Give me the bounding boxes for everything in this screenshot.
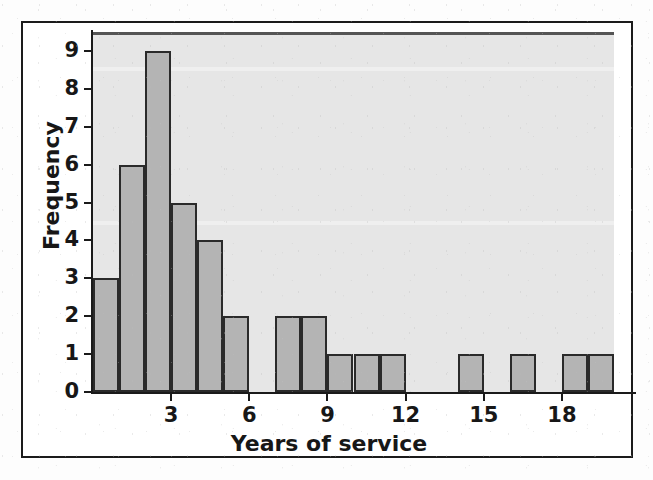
histogram-bar bbox=[119, 165, 145, 392]
x-axis-tick bbox=[405, 392, 407, 401]
histogram-bar bbox=[93, 278, 119, 392]
y-axis-tick-label: 1 bbox=[23, 343, 79, 364]
histogram-bar bbox=[223, 316, 249, 392]
histogram-bar bbox=[510, 354, 536, 392]
y-axis-tick bbox=[84, 126, 92, 128]
x-axis-tick-label: 6 bbox=[219, 405, 279, 426]
x-axis-line bbox=[91, 392, 636, 394]
y-axis-tick bbox=[84, 88, 92, 90]
x-axis-tick-label: 3 bbox=[141, 405, 201, 426]
y-axis-tick bbox=[84, 239, 92, 241]
y-axis-tick-label: 2 bbox=[23, 305, 79, 326]
histogram-bar bbox=[197, 240, 223, 392]
histogram-bar bbox=[301, 316, 327, 392]
y-axis-tick bbox=[84, 315, 92, 317]
y-axis-tick bbox=[84, 202, 92, 204]
histogram-bar bbox=[171, 203, 197, 392]
y-axis-tick bbox=[84, 353, 92, 355]
histogram-bar bbox=[380, 354, 406, 392]
histogram-bar bbox=[275, 316, 301, 392]
x-axis-tick bbox=[170, 392, 172, 401]
x-axis-tick-label: 12 bbox=[376, 405, 436, 426]
scan-band bbox=[93, 67, 614, 71]
x-axis-tick-label: 18 bbox=[532, 405, 592, 426]
histogram-screenshot: 0123456789 369121518 Frequency Years of … bbox=[0, 0, 653, 480]
y-axis-tick-label: 9 bbox=[23, 40, 79, 61]
histogram-bar bbox=[458, 354, 484, 392]
y-axis-tick-label: 0 bbox=[23, 381, 79, 402]
y-axis-title: Frequency bbox=[39, 96, 64, 276]
x-axis-tick bbox=[248, 392, 250, 401]
histogram-bar bbox=[145, 51, 171, 392]
histogram-bar bbox=[562, 354, 588, 392]
histogram-bar bbox=[354, 354, 380, 392]
x-axis-title: Years of service bbox=[23, 431, 635, 456]
chart-figure: 0123456789 369121518 Frequency Years of … bbox=[23, 23, 635, 460]
x-axis-tick bbox=[326, 392, 328, 401]
y-axis-tick bbox=[84, 164, 92, 166]
y-axis-tick bbox=[84, 50, 92, 52]
x-axis-tick bbox=[561, 392, 563, 401]
histogram-bar bbox=[588, 354, 614, 392]
x-axis-tick-label: 15 bbox=[454, 405, 514, 426]
figure-outer-frame: 0123456789 369121518 Frequency Years of … bbox=[21, 21, 633, 458]
x-axis-tick-label: 9 bbox=[297, 405, 357, 426]
y-axis-tick bbox=[84, 277, 92, 279]
y-axis-tick bbox=[84, 391, 92, 393]
x-axis-tick bbox=[483, 392, 485, 401]
histogram-bar bbox=[327, 354, 353, 392]
